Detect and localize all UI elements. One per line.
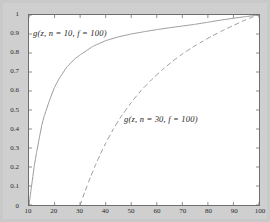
series-label-n30: g(z, n = 30, f = 100) bbox=[124, 114, 198, 124]
x-axis-tick-marks bbox=[29, 15, 259, 205]
x-tick-label: 40 bbox=[93, 208, 117, 215]
series-curve-0 bbox=[29, 15, 259, 205]
x-tick-label: 80 bbox=[196, 208, 220, 215]
y-tick-label: 0.4 bbox=[0, 126, 19, 133]
x-tick-label: 20 bbox=[42, 208, 66, 215]
plot-axes-box bbox=[28, 14, 260, 206]
x-tick-label: 100 bbox=[248, 208, 270, 215]
x-tick-label: 10 bbox=[16, 208, 40, 215]
y-tick-label: 0.2 bbox=[0, 164, 19, 171]
y-tick-label: 0.7 bbox=[0, 68, 19, 75]
figure-panel: 00.10.20.30.40.50.60.70.80.91 1020304050… bbox=[3, 3, 267, 219]
y-tick-label: 0.5 bbox=[0, 107, 19, 114]
y-tick-label: 0.8 bbox=[0, 49, 19, 56]
y-tick-label: 0.9 bbox=[0, 30, 19, 37]
plot-canvas bbox=[29, 15, 259, 205]
series-label-n10: g(z, n = 10, f = 100) bbox=[33, 28, 107, 38]
x-tick-label: 30 bbox=[68, 208, 92, 215]
y-tick-label: 0.6 bbox=[0, 87, 19, 94]
y-tick-label: 1 bbox=[0, 11, 19, 18]
x-tick-label: 90 bbox=[222, 208, 246, 215]
x-tick-label: 50 bbox=[119, 208, 143, 215]
series-curve-1 bbox=[80, 15, 259, 205]
x-tick-label: 60 bbox=[145, 208, 169, 215]
figure-container: 00.10.20.30.40.50.60.70.80.91 1020304050… bbox=[0, 0, 270, 222]
data-series-layer bbox=[29, 15, 259, 205]
y-tick-label: 0.3 bbox=[0, 145, 19, 152]
y-axis-tick-marks bbox=[29, 15, 259, 205]
y-tick-label: 0.1 bbox=[0, 183, 19, 190]
x-tick-label: 70 bbox=[171, 208, 195, 215]
